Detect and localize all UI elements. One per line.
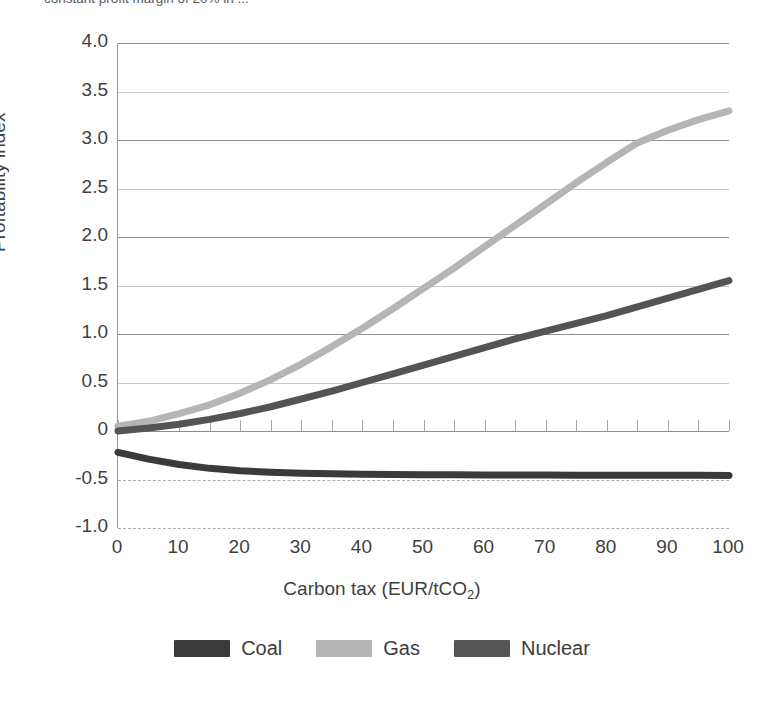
x-tick-label: 70 [515,536,575,558]
y-tick-label: 1.5 [0,273,120,295]
x-axis-title-tail: ) [474,578,480,599]
y-tick-label: 2.5 [0,176,120,198]
series-line-gas [118,111,729,426]
chart-legend: CoalGasNuclear [0,637,764,660]
y-tick-label: -1.0 [0,515,120,537]
legend-label: Gas [383,637,420,660]
x-axis-title-subscript: 2 [467,587,474,602]
legend-swatch-gas [316,640,372,657]
gridline [118,528,729,529]
y-tick-label: 1.0 [0,321,120,343]
legend-swatch-nuclear [454,640,510,657]
x-tick-label: 100 [698,536,758,558]
legend-item-nuclear[interactable]: Nuclear [454,637,590,660]
y-tick-label: 0 [0,418,120,440]
series-line-coal [118,452,729,475]
cut-off-caption: constant profit margin of 20% in ... [44,0,744,9]
legend-label: Nuclear [521,637,590,660]
legend-label: Coal [241,637,282,660]
y-tick-label: 3.5 [0,79,120,101]
x-tick-label: 10 [148,536,208,558]
x-tick-label: 90 [637,536,697,558]
legend-swatch-coal [174,640,230,657]
x-tick-label: 50 [393,536,453,558]
zero-line-tick [729,420,730,431]
series-curves [118,43,729,528]
x-tick-label: 0 [87,536,147,558]
y-tick-label: 4.0 [0,30,120,52]
y-tick-label: 2.0 [0,224,120,246]
x-tick-label: 60 [454,536,514,558]
y-tick-label: 3.0 [0,127,120,149]
chart-figure: constant profit margin of 20% in ... Pro… [0,0,764,704]
legend-item-gas[interactable]: Gas [316,637,420,660]
plot-area [117,43,729,528]
x-axis-title: Carbon tax (EUR/tCO2) [0,578,764,600]
x-tick-label: 40 [331,536,391,558]
x-tick-label: 30 [270,536,330,558]
x-tick-label: 20 [209,536,269,558]
y-tick-label: -0.5 [0,467,120,489]
y-tick-label: 0.5 [0,370,120,392]
legend-item-coal[interactable]: Coal [174,637,282,660]
x-axis-title-base: Carbon tax (EUR/tCO [283,578,467,599]
x-tick-label: 80 [576,536,636,558]
